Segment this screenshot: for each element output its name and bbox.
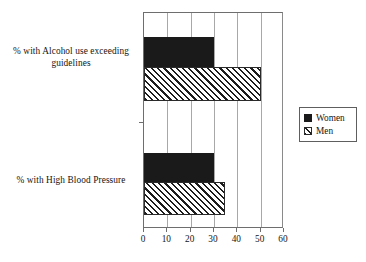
x-axis-tick-60 — [283, 228, 284, 232]
legend-label-women: Women — [316, 113, 345, 123]
x-axis-label-30: 30 — [200, 234, 226, 244]
chart-legend: Women Men — [299, 107, 357, 142]
x-axis-label-0: 0 — [130, 234, 156, 244]
category-label-alcohol-line2: guidelines — [4, 58, 138, 70]
category-label-alcohol-line1: % with Alcohol use exceeding — [4, 46, 138, 58]
plot-area — [143, 12, 283, 228]
legend-swatch-men-icon — [304, 127, 312, 135]
legend-swatch-women-icon — [304, 114, 312, 122]
x-axis-tick-20 — [190, 228, 191, 232]
legend-item-men: Men — [304, 124, 352, 137]
x-axis-tick-50 — [260, 228, 261, 232]
category-label-alcohol: % with Alcohol use exceeding guidelines — [4, 46, 138, 69]
bar-men-group-0 — [144, 67, 261, 101]
legend-label-men: Men — [316, 126, 333, 136]
bar-women-group-1 — [144, 153, 214, 182]
gridline-50 — [261, 13, 262, 227]
bar-men-group-1 — [144, 182, 225, 215]
bar-chart: % with Alcohol use exceeding guidelines … — [0, 0, 366, 262]
x-axis-label-50: 50 — [247, 234, 273, 244]
bar-women-group-0 — [144, 37, 214, 67]
x-axis-tick-40 — [236, 228, 237, 232]
x-axis-label-20: 20 — [177, 234, 203, 244]
legend-item-women: Women — [304, 111, 352, 124]
x-axis-tick-30 — [213, 228, 214, 232]
x-axis-label-40: 40 — [223, 234, 249, 244]
category-axis-tick — [139, 122, 143, 123]
x-axis-tick-10 — [166, 228, 167, 232]
category-label-blood-pressure: % with High Blood Pressure — [4, 175, 138, 187]
x-axis-label-10: 10 — [153, 234, 179, 244]
x-axis-tick-0 — [143, 228, 144, 232]
x-axis-label-60: 60 — [270, 234, 296, 244]
gridline-40 — [237, 13, 238, 227]
